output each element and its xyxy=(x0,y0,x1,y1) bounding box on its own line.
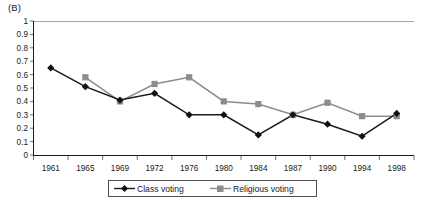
x-tick-label: 1998 xyxy=(388,164,407,173)
x-tick-label: 1990 xyxy=(318,164,337,173)
y-axis-tick-marks xyxy=(30,21,34,155)
data-point-class-voting xyxy=(220,111,227,118)
y-tick-label: 0.7 xyxy=(17,57,29,66)
data-point-class-voting xyxy=(324,121,331,128)
y-tick-label: 0.8 xyxy=(17,44,29,53)
data-point-religious-voting xyxy=(221,98,227,104)
x-tick-label: 1961 xyxy=(42,164,61,173)
chart-figure: (B) 00.10.20.30.40.50.60.70.80.91 196119… xyxy=(0,0,424,201)
data-point-class-voting xyxy=(255,131,262,138)
y-tick-label: 0.2 xyxy=(17,124,29,133)
x-tick-label: 1980 xyxy=(215,164,234,173)
y-axis-tick-labels: 00.10.20.30.40.50.60.70.80.91 xyxy=(17,17,29,160)
y-tick-label: 0.1 xyxy=(17,138,29,147)
data-point-class-voting xyxy=(186,111,193,118)
x-axis-tick-labels: 1961196519691972197619801984198719901994… xyxy=(42,164,407,173)
data-point-religious-voting xyxy=(359,113,365,119)
chart-legend: Class voting Religious voting xyxy=(109,181,317,197)
x-tick-label: 1994 xyxy=(353,164,372,173)
legend-label-religious-voting: Religious voting xyxy=(233,184,294,194)
series-line-religious-voting xyxy=(85,77,396,116)
x-tick-label: 1976 xyxy=(180,164,199,173)
x-tick-label: 1984 xyxy=(249,164,268,173)
legend-marker-square-icon xyxy=(217,186,224,193)
data-point-religious-voting xyxy=(82,74,88,80)
y-tick-label: 0.3 xyxy=(17,111,29,120)
legend-label-class-voting: Class voting xyxy=(137,184,184,194)
data-point-religious-voting xyxy=(151,81,157,87)
data-point-religious-voting xyxy=(255,101,261,107)
data-point-class-voting xyxy=(151,90,158,97)
x-axis-tick-marks xyxy=(34,156,415,161)
data-point-religious-voting xyxy=(324,100,330,106)
x-tick-label: 1972 xyxy=(145,164,164,173)
data-point-class-voting xyxy=(82,83,89,90)
x-tick-label: 1987 xyxy=(284,164,303,173)
y-tick-label: 0.4 xyxy=(17,97,29,106)
y-tick-label: 0.5 xyxy=(17,84,29,93)
x-tick-label: 1969 xyxy=(111,164,130,173)
x-tick-label: 1965 xyxy=(76,164,95,173)
y-tick-label: 0.9 xyxy=(17,30,29,39)
y-tick-label: 1 xyxy=(23,17,28,26)
line-chart: 00.10.20.30.40.50.60.70.80.91 1961196519… xyxy=(0,0,424,201)
data-point-religious-voting xyxy=(186,74,192,80)
data-point-class-voting xyxy=(47,64,54,71)
y-tick-label: 0.6 xyxy=(17,71,29,80)
y-tick-label: 0 xyxy=(23,151,28,160)
